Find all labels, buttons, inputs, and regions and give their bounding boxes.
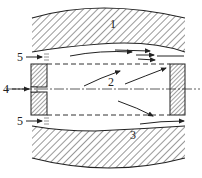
label-5-upper: 5 bbox=[17, 50, 23, 64]
inner-flow-arrows bbox=[84, 68, 166, 116]
right-block bbox=[170, 64, 185, 115]
label-2: 2 bbox=[108, 75, 114, 89]
upper-wall bbox=[32, 8, 185, 52]
label-1: 1 bbox=[110, 17, 116, 31]
flow-diagram: 1 2 3 4 5 5 bbox=[0, 0, 202, 178]
label-5-lower: 5 bbox=[17, 114, 23, 128]
label-3: 3 bbox=[130, 128, 136, 142]
lower-flow-arrows bbox=[140, 121, 184, 124]
diagram-container: 1 2 3 4 5 5 bbox=[0, 0, 202, 178]
left-block bbox=[31, 64, 47, 115]
lower-wall bbox=[32, 126, 185, 168]
label-4: 4 bbox=[3, 82, 9, 96]
upper-flow-arrows bbox=[70, 50, 184, 60]
